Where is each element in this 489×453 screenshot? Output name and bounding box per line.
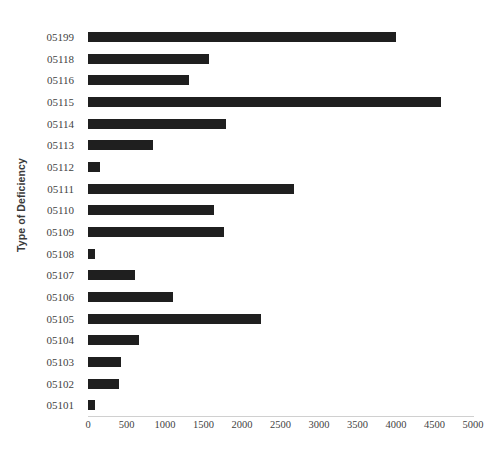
bar-row [88, 264, 473, 286]
y-axis-tick-label: 05104 [47, 329, 75, 351]
y-axis-tick-label: 05109 [47, 221, 75, 243]
bar [88, 97, 441, 107]
y-axis-tick-label: 05105 [47, 308, 75, 330]
x-axis-line [88, 416, 474, 417]
y-axis-tick-labels: 0519905118051160511505114051130511205111… [0, 26, 84, 416]
bar-row [88, 286, 473, 308]
bar [88, 249, 95, 259]
bar-chart: Type of Deficiency 051990511805116051150… [0, 0, 489, 453]
y-axis-tick-label: 05111 [47, 178, 74, 200]
y-axis-tick-label: 05116 [47, 69, 74, 91]
bar-row [88, 91, 473, 113]
bar [88, 227, 224, 237]
bar [88, 119, 226, 129]
y-axis-tick-label: 05103 [47, 351, 75, 373]
bar [88, 335, 139, 345]
bar [88, 162, 100, 172]
y-axis-tick-label: 05108 [47, 243, 75, 265]
bar-row [88, 156, 473, 178]
bar [88, 75, 189, 85]
y-axis-tick-label: 05115 [47, 91, 74, 113]
bar-row [88, 243, 473, 265]
bar-row [88, 48, 473, 70]
y-axis-tick-label: 05107 [47, 264, 75, 286]
bar-row [88, 199, 473, 221]
y-axis-tick-label: 05106 [47, 286, 75, 308]
bar [88, 270, 135, 280]
y-axis-tick-label: 05101 [47, 394, 75, 416]
bar-row [88, 394, 473, 416]
y-axis-tick-label: 05113 [47, 134, 74, 156]
bar [88, 400, 95, 410]
y-axis-tick-label: 05110 [47, 199, 74, 221]
bar [88, 292, 173, 302]
x-axis-tick-label: 5000 [443, 419, 489, 430]
y-axis-tick-label: 05102 [47, 373, 75, 395]
bar-row [88, 351, 473, 373]
bar [88, 379, 119, 389]
bar-row [88, 373, 473, 395]
y-axis-tick-label: 05199 [47, 26, 75, 48]
bar-row [88, 308, 473, 330]
bar-row [88, 26, 473, 48]
plot-area [88, 26, 473, 416]
bar-row [88, 113, 473, 135]
bar [88, 184, 294, 194]
bar-row [88, 134, 473, 156]
bar-row [88, 329, 473, 351]
y-axis-tick-label: 05114 [47, 113, 74, 135]
bar [88, 140, 153, 150]
bar [88, 357, 121, 367]
x-axis-tick-labels: 0500100015002000250030003500400045005000 [88, 419, 474, 439]
bar-row [88, 221, 473, 243]
bar [88, 54, 209, 64]
bar-row [88, 178, 473, 200]
y-axis-tick-label: 05112 [47, 156, 74, 178]
y-axis-tick-label: 05118 [47, 48, 74, 70]
bar [88, 205, 214, 215]
bar-row [88, 69, 473, 91]
bar [88, 314, 261, 324]
bar [88, 32, 396, 42]
